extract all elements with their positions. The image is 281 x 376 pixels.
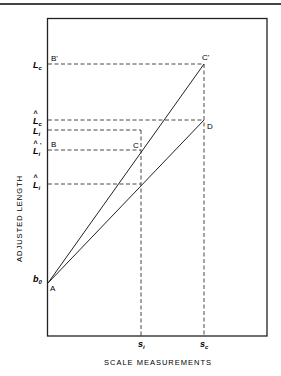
- label-sc: sc: [200, 339, 209, 350]
- point-C-prime: C': [202, 53, 210, 62]
- point-B-prime: B': [51, 54, 58, 63]
- point-C: C: [133, 141, 139, 150]
- point-B: B: [51, 140, 56, 149]
- point-D: D: [207, 122, 213, 131]
- y-axis-title: ADJUSTED LENGTH: [15, 175, 24, 262]
- hat-Lc: ^: [34, 110, 38, 117]
- point-A: A: [50, 284, 56, 293]
- hat-Li-prime: ^: [34, 140, 38, 147]
- label-b0: b0: [33, 274, 43, 285]
- label-si: si: [138, 339, 145, 350]
- line-A-Cprime: [48, 64, 204, 283]
- line-A-D: [48, 120, 204, 283]
- calibration-diagram: Lc Lc ^ Li Li ^ ' Li ^ b0 A B B' C C' D …: [0, 0, 281, 376]
- label-Li-hat: Li: [33, 180, 41, 191]
- label-Lc: Lc: [33, 60, 43, 71]
- x-axis-title: SCALE MEASUREMENTS: [104, 358, 212, 367]
- label-Li: Li: [33, 126, 41, 137]
- hat-Li: ^: [34, 174, 38, 181]
- prime-Li: ': [40, 142, 42, 148]
- plot-frame: [48, 19, 268, 337]
